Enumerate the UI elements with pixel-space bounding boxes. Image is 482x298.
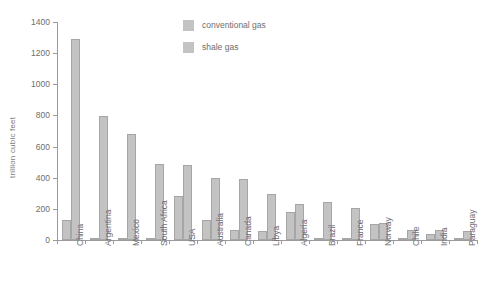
bar	[370, 224, 379, 240]
x-tick-label: Algeria	[299, 220, 309, 246]
x-tick-mark	[141, 240, 142, 244]
y-tick-label: 1200	[31, 48, 50, 58]
y-tick-label: 1000	[31, 79, 50, 89]
x-axis-labels: ChinaArgentinaMexicoSouth AfricaUSAAustr…	[57, 246, 477, 298]
bar	[454, 238, 463, 240]
x-tick-mark	[421, 240, 422, 244]
y-tick-label: 200	[36, 204, 50, 214]
x-tick-mark	[365, 240, 366, 244]
bar	[202, 220, 211, 240]
x-tick-mark	[169, 240, 170, 244]
chart-legend: conventional gas shale gas	[183, 17, 343, 61]
bar	[230, 230, 239, 240]
bar	[90, 238, 99, 240]
legend-swatch-icon	[183, 20, 194, 31]
y-tick-mark	[53, 178, 57, 179]
x-tick-label: India	[439, 228, 449, 246]
legend-label: conventional gas	[202, 20, 266, 30]
y-tick-mark	[53, 209, 57, 210]
x-tick-label: China	[75, 224, 85, 246]
x-tick-mark	[113, 240, 114, 244]
bar	[398, 238, 407, 240]
x-tick-label: Paraguay	[467, 210, 477, 246]
x-tick-mark	[85, 240, 86, 244]
x-tick-label: South Africa	[159, 200, 169, 246]
bar-chart: trillion cubic feet 02004006008001000120…	[0, 0, 482, 298]
x-tick-label: Argentina	[103, 210, 113, 246]
x-tick-label: Chile	[411, 227, 421, 246]
legend-swatch-icon	[183, 42, 194, 53]
bar	[314, 238, 323, 240]
bar	[286, 212, 295, 240]
x-tick-mark	[225, 240, 226, 244]
x-tick-mark	[393, 240, 394, 244]
y-tick-mark	[53, 84, 57, 85]
legend-label: shale gas	[202, 42, 238, 52]
x-tick-label: Canada	[243, 216, 253, 246]
bar	[118, 238, 127, 240]
x-tick-mark	[337, 240, 338, 244]
y-tick-label: 600	[36, 142, 50, 152]
x-tick-mark	[281, 240, 282, 244]
x-tick-mark	[309, 240, 310, 244]
y-tick-mark	[53, 147, 57, 148]
y-axis-line	[57, 22, 58, 240]
x-tick-label: USA	[187, 229, 197, 246]
x-tick-mark	[449, 240, 450, 244]
y-tick-mark	[53, 115, 57, 116]
bar	[174, 196, 183, 240]
x-tick-label: France	[355, 220, 365, 246]
x-tick-label: Norway	[383, 217, 393, 246]
x-tick-mark	[197, 240, 198, 244]
y-tick-label: 800	[36, 110, 50, 120]
y-tick-mark	[53, 53, 57, 54]
x-tick-label: Australia	[215, 213, 225, 246]
x-tick-label: Brazil	[327, 225, 337, 246]
y-tick-label: 1400	[31, 17, 50, 27]
bar	[62, 220, 71, 240]
x-tick-label: Libya	[271, 226, 281, 246]
legend-item-shale-gas: shale gas	[183, 39, 343, 55]
x-tick-mark	[253, 240, 254, 244]
x-tick-mark	[477, 240, 478, 244]
y-tick-label: 0	[45, 235, 50, 245]
bar	[146, 238, 155, 240]
y-tick-mark	[53, 22, 57, 23]
bar	[426, 234, 435, 240]
x-tick-mark	[57, 240, 58, 244]
y-tick-label: 400	[36, 173, 50, 183]
legend-item-conventional-gas: conventional gas	[183, 17, 343, 33]
bar	[258, 231, 267, 240]
bar	[71, 39, 80, 240]
bar	[342, 238, 351, 240]
x-tick-label: Mexico	[131, 219, 141, 246]
